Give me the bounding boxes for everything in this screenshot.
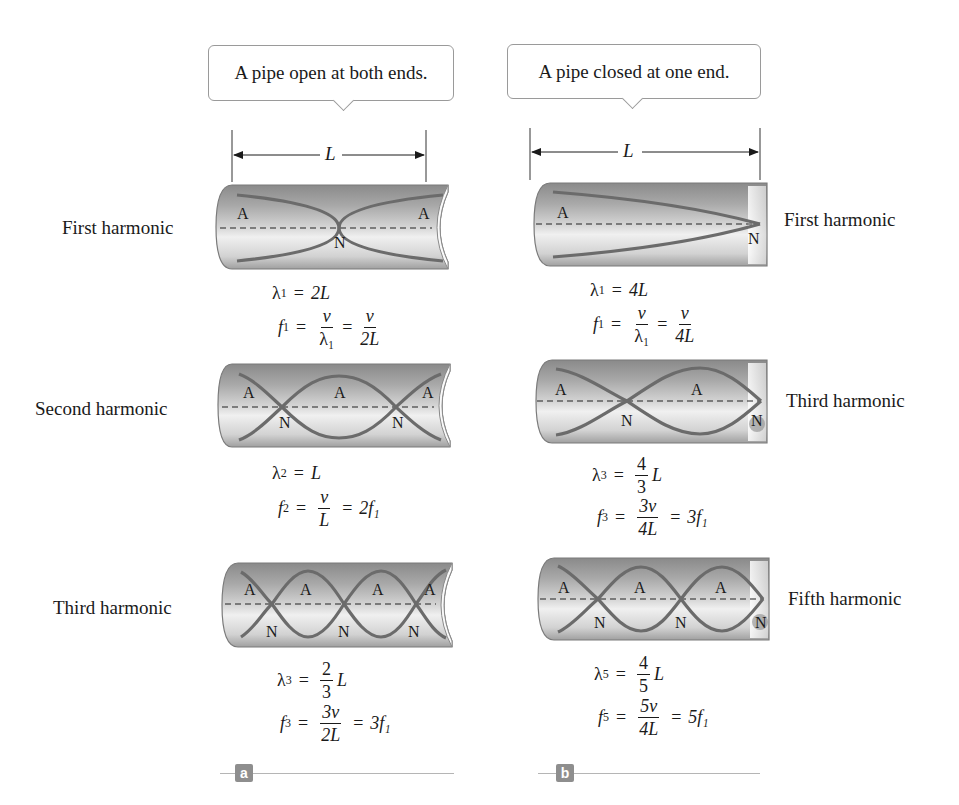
node-label: N <box>621 412 633 430</box>
frequency-value: 5f₁ <box>688 707 708 728</box>
wavelength-eq-b2: λ3 = 43 L <box>592 455 662 496</box>
subscript: 5 <box>603 667 609 682</box>
subscript: 2 <box>281 466 287 481</box>
antinode-label: A <box>300 581 312 599</box>
frequency-eq-a2: f2 = vL =2f₁ <box>278 488 380 529</box>
frequency-eq-a3: f3 = 3v2L =3f₁ <box>280 703 391 744</box>
antinode-label: A <box>422 384 434 402</box>
frac-denominator: 4L <box>636 518 659 538</box>
lambda-symbol: λ <box>594 664 603 685</box>
lambda-symbol: λ <box>592 465 601 486</box>
frac-numerator: 3v <box>320 703 341 724</box>
frac-numerator: v <box>636 304 648 325</box>
frequency-value: 3f₁ <box>370 713 390 734</box>
lambda-symbol: λ <box>272 283 281 304</box>
wavelength-eq-b3: λ5 = 45 L <box>594 654 664 695</box>
node-label: N <box>755 614 767 632</box>
frequency-value: 2f₁ <box>359 498 379 519</box>
closed-pipe-fifth-harmonic <box>538 558 769 640</box>
harmonic-label-b1: First harmonic <box>784 209 895 231</box>
frac-denominator: λ₁ <box>317 328 336 348</box>
antinode-label: A <box>691 381 703 399</box>
node-label: N <box>279 414 291 432</box>
frequency-eq-a1: f1 = vλ₁ = v2L <box>278 307 385 348</box>
frac-numerator: v <box>679 304 691 325</box>
wavelength-value: L <box>311 463 321 484</box>
antinode-label: A <box>244 581 256 599</box>
subscript: 2 <box>283 501 289 516</box>
wavelength-value: 2L <box>311 283 330 304</box>
subscript: 1 <box>598 317 604 332</box>
open-pipe-first-harmonic <box>216 185 448 269</box>
harmonic-label-b3: Fifth harmonic <box>788 588 901 610</box>
frac-denominator: 4L <box>637 718 660 738</box>
wavelength-eq-b1: λ1 =4L <box>590 280 648 301</box>
frac-denominator: λ₁ <box>632 325 651 345</box>
node-label: N <box>408 623 420 641</box>
dimension-label-b: L <box>623 140 634 162</box>
wavelength-value: 4L <box>629 280 648 301</box>
open-pipe-second-harmonic <box>218 364 450 447</box>
frac-numerator: 2 <box>320 660 333 681</box>
antinode-label: A <box>237 205 249 223</box>
panel-a-rule <box>220 773 454 774</box>
wavelength-eq-a2: λ2 =L <box>272 463 321 484</box>
node-label: N <box>334 234 346 252</box>
subscript: 3 <box>602 510 608 525</box>
subscript: 3 <box>285 716 291 731</box>
antinode-label: A <box>557 204 569 222</box>
node-label: N <box>392 414 404 432</box>
lambda-symbol: λ <box>590 280 599 301</box>
frac-numerator: 5v <box>638 697 659 718</box>
frac-numerator: v <box>318 488 330 509</box>
frequency-eq-b1: f1 = vλ₁ = v4L <box>593 304 700 345</box>
wavelength-eq-a1: λ1 =2L <box>272 283 330 304</box>
wavelength-value: L <box>654 664 664 685</box>
node-label: N <box>748 230 760 248</box>
antinode-label: A <box>634 579 646 597</box>
frequency-eq-b2: f3 = 3v4L =3f₁ <box>597 497 708 538</box>
frac-numerator: 3v <box>637 497 658 518</box>
closed-pipe-third-harmonic <box>536 360 767 443</box>
panel-b-rule-right <box>574 773 760 774</box>
subscript: 3 <box>601 468 607 483</box>
harmonic-label-a2: Second harmonic <box>35 398 167 420</box>
node-label: N <box>266 623 278 641</box>
lambda-symbol: λ <box>277 670 286 691</box>
frac-numerator: 4 <box>637 654 650 675</box>
subscript: 5 <box>603 710 609 725</box>
frac-denominator: 4L <box>673 325 696 345</box>
node-label: N <box>751 412 763 430</box>
wavelength-eq-a3: λ3 = 23 L <box>277 660 347 701</box>
subscript: 1 <box>281 286 287 301</box>
frac-numerator: v <box>364 307 376 328</box>
node-label: N <box>594 614 606 632</box>
antinode-label: A <box>555 381 567 399</box>
harmonic-label-a3: Third harmonic <box>53 597 172 619</box>
harmonic-label-a1: First harmonic <box>62 217 173 239</box>
frac-denominator: 2L <box>319 724 342 744</box>
node-label: N <box>675 614 687 632</box>
harmonic-label-b2: Third harmonic <box>786 390 905 412</box>
antinode-label: A <box>243 384 255 402</box>
node-label: N <box>338 623 350 641</box>
lambda-symbol: λ <box>272 463 281 484</box>
dimension-b <box>530 128 760 180</box>
frequency-value: 3f₁ <box>687 507 707 528</box>
panel-tag-b: b <box>556 764 574 782</box>
subscript: 1 <box>283 320 289 335</box>
frac-denominator: 2L <box>358 328 381 348</box>
frequency-eq-b3: f5 = 5v4L =5f₁ <box>598 697 709 738</box>
antinode-label: A <box>715 579 727 597</box>
frac-denominator: 5 <box>637 675 650 695</box>
panel-tag-a: a <box>235 764 253 782</box>
dimension-label-a: L <box>325 143 336 165</box>
antinode-label: A <box>372 581 384 599</box>
antinode-label: A <box>424 581 436 599</box>
antinode-label: A <box>418 205 430 223</box>
subscript: 3 <box>286 673 292 688</box>
frac-denominator: 3 <box>635 476 648 496</box>
subscript: 1 <box>599 283 605 298</box>
wavelength-value: L <box>337 670 347 691</box>
closed-pipe-first-harmonic <box>534 183 767 266</box>
